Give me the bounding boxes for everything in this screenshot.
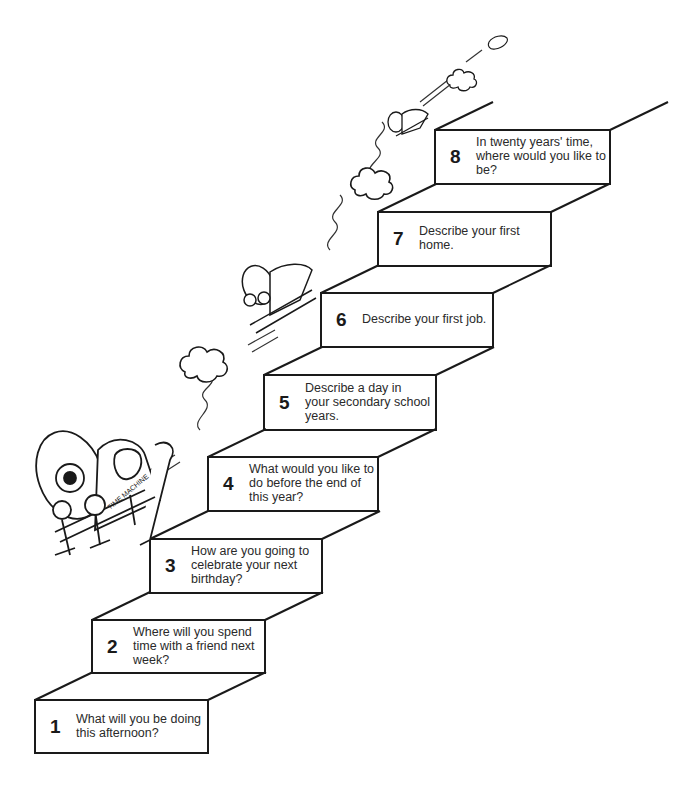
step-tread-right-edge (265, 592, 323, 620)
step-tread-left-edge (92, 592, 150, 620)
smoke-cloud-icon (351, 168, 393, 199)
time-machine-sleigh-icon: TIME MACHINE (25, 422, 173, 555)
step-question: What will you be doing this afternoon? (76, 712, 201, 740)
time-machine-sleigh-icon (488, 36, 507, 49)
step-tread-left-edge (264, 347, 322, 375)
step-number: 8 (450, 146, 461, 168)
smoke-cloud-icon (447, 69, 477, 90)
step-tread-right-edge (551, 184, 609, 212)
step-tread-right-edge (322, 511, 380, 539)
step-question: Describe your first home. (419, 224, 520, 252)
step-question: Describe a day in your secondary school … (305, 381, 430, 423)
step-question: Describe your first job. (362, 312, 486, 326)
step-tread-right-edge (378, 429, 436, 457)
step-tread-left-edge (321, 265, 379, 293)
time-machine-sleigh-icon (388, 110, 428, 137)
step-number: 6 (336, 309, 347, 331)
step-question: In twenty years' time, where would you l… (476, 135, 606, 177)
step-question: Where will you spend time with a friend … (133, 625, 255, 667)
step-tread-left-edge (208, 429, 266, 457)
step-tread-right-edge (208, 672, 266, 700)
step-tread-left-edge (435, 102, 493, 130)
step-tread-right-edge (610, 102, 668, 130)
step-number: 1 (50, 716, 61, 738)
step-question: How are you going to celebrate your next… (191, 544, 309, 586)
step-tread-right-edge (493, 265, 551, 293)
step-question: What would you like to do before the end… (249, 462, 374, 504)
step-tread-left-edge (35, 672, 93, 700)
time-machine-sleigh-icon (237, 261, 316, 333)
step-tread-right-edge (436, 347, 494, 375)
step-number: 2 (107, 636, 118, 658)
step-number: 7 (393, 228, 404, 250)
step-number: 4 (223, 473, 234, 495)
step-number: 3 (165, 555, 176, 577)
step-number: 5 (279, 392, 290, 414)
smoke-cloud-icon (180, 347, 227, 382)
step-tread-left-edge (150, 511, 208, 539)
